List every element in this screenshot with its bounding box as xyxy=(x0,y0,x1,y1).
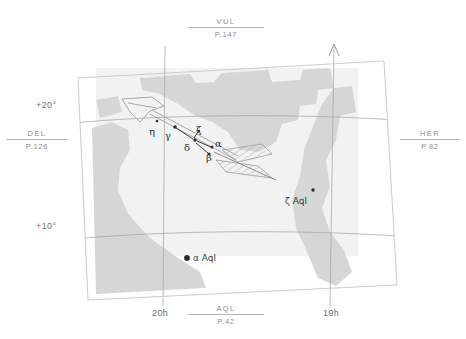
star-alpha-sge xyxy=(211,146,214,149)
star-alpha-aql xyxy=(184,255,190,261)
sky-map-canvas xyxy=(0,0,466,339)
neighbour-name-her: HER xyxy=(400,130,460,140)
neighbour-name-vul: VUL xyxy=(188,18,264,28)
right-ascension-label-19h: 19h xyxy=(323,308,339,318)
bayer-label-alpha: α xyxy=(215,138,222,149)
bayer-label-gamma: γ xyxy=(165,130,171,141)
star-zeta-aql xyxy=(311,188,314,191)
neighbour-page-vul: P.147 xyxy=(188,28,264,38)
bayer-label-beta: β xyxy=(206,152,212,163)
bayer-label-eta: η xyxy=(149,126,155,137)
neighbour-page-her: P.82 xyxy=(400,140,460,150)
neighbour-page-aql: P.42 xyxy=(188,315,264,325)
neighbour-name-aql: AQL xyxy=(188,305,264,315)
star-gamma-sge xyxy=(173,125,177,129)
neighbour-label-aql[interactable]: AQL P.42 xyxy=(188,305,264,326)
star-chart: VUL P.147 DEL P.126 HER P.82 AQL P.42 +2… xyxy=(0,0,466,339)
declination-label-20: +20° xyxy=(36,100,56,110)
star-delta-sge xyxy=(193,138,196,141)
star-caption-alpha-aql: α Aql xyxy=(193,253,216,263)
star-caption-zeta-aql: ζ Aql xyxy=(285,196,307,206)
neighbour-label-her[interactable]: HER P.82 xyxy=(400,130,460,151)
neighbour-label-vul[interactable]: VUL P.147 xyxy=(188,18,264,39)
right-ascension-label-20h: 20h xyxy=(152,308,168,318)
bayer-label-delta: δ xyxy=(184,142,190,153)
declination-label-10: +10° xyxy=(36,221,56,231)
bayer-label-zeta: ζ xyxy=(196,124,201,135)
neighbour-name-del: DEL xyxy=(6,130,68,140)
star-eta-sge xyxy=(156,120,159,123)
neighbour-label-del[interactable]: DEL P.126 xyxy=(6,130,68,151)
neighbour-page-del: P.126 xyxy=(6,140,68,150)
